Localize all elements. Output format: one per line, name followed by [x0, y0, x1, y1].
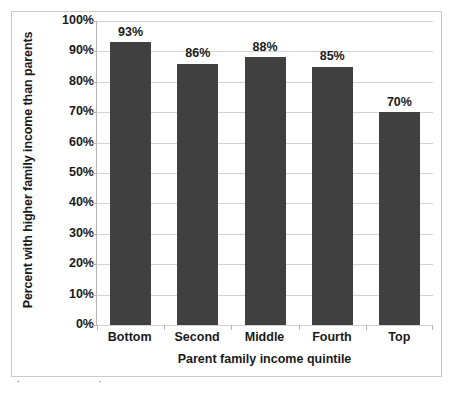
y-axis-tick-label: 20% — [38, 257, 94, 270]
gridline — [97, 325, 433, 326]
bars-layer: 93%86%88%85%70% — [97, 21, 433, 325]
bar — [245, 57, 286, 325]
y-axis-title-text: Percent with higher family income than p… — [21, 32, 35, 309]
x-axis-tick-label: Second — [163, 330, 230, 344]
y-axis-tick-label: 90% — [38, 44, 94, 57]
bar-slot: 70% — [366, 21, 433, 325]
y-axis-tick-label: 40% — [38, 196, 94, 209]
y-axis-tick-label: 80% — [38, 75, 94, 88]
bar — [379, 112, 420, 325]
x-axis-tick-label: Middle — [231, 330, 298, 344]
x-axis-tick-label: Fourth — [298, 330, 365, 344]
bar-value-label: 93% — [97, 26, 164, 39]
y-axis-tick-label: 0% — [38, 318, 94, 331]
caption-fragment-text: partial cut-off caption text — [17, 381, 145, 382]
x-axis-title: Parent family income quintile — [96, 352, 433, 366]
y-axis-tick-label: 10% — [38, 287, 94, 300]
y-axis-tick-label: 30% — [38, 227, 94, 240]
bar-slot: 85% — [299, 21, 366, 325]
bar-value-label: 85% — [299, 50, 366, 63]
chart-figure: Percent with higher family income than p… — [11, 11, 442, 377]
y-axis-tick-label: 70% — [38, 105, 94, 118]
y-axis-title: Percent with higher family income than p… — [16, 12, 40, 328]
y-axis-tick-labels: 0%10%20%30%40%50%60%70%80%90%100% — [38, 20, 94, 326]
bar — [177, 64, 218, 325]
y-axis-tick-label: 100% — [38, 14, 94, 27]
bar — [110, 42, 151, 325]
x-axis-tick-labels: BottomSecondMiddleFourthTop — [96, 330, 433, 344]
x-axis-tick-label: Bottom — [96, 330, 163, 344]
bar-value-label: 70% — [366, 96, 433, 109]
y-axis-tick-label: 60% — [38, 135, 94, 148]
bar-slot: 86% — [164, 21, 231, 325]
caption-fragment: partial cut-off caption text — [11, 381, 442, 395]
bar-value-label: 86% — [164, 47, 231, 60]
plot-area: 93%86%88%85%70% — [96, 21, 433, 326]
bar-slot: 88% — [231, 21, 298, 325]
bar-value-label: 88% — [231, 41, 298, 54]
bar — [312, 67, 353, 325]
bar-slot: 93% — [97, 21, 164, 325]
y-axis-tick-label: 50% — [38, 166, 94, 179]
x-axis-tick-label: Top — [366, 330, 433, 344]
